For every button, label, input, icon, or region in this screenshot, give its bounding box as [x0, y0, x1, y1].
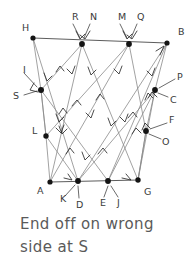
edge-SI-RN — [41, 44, 82, 90]
pointer-I — [24, 73, 37, 87]
pointer-D — [78, 186, 79, 198]
graph-svg: H R N M Q B I S P C L F O A K D E J G En… — [0, 0, 195, 269]
caption-line-2: side at S — [20, 238, 88, 256]
vertex-label-A: A — [37, 185, 44, 196]
arrow-EJ-B-a — [132, 128, 141, 134]
vertex-label-N: N — [90, 11, 97, 22]
edge-B-KD — [78, 43, 167, 181]
arrowheads-layer — [30, 31, 164, 180]
pointer-C — [158, 93, 168, 97]
node-A[interactable] — [47, 179, 52, 184]
edge-A-G — [50, 180, 138, 182]
vertex-label-P: P — [177, 71, 183, 82]
diagram-canvas-container: H R N M Q B I S P C L F O A K D E J G En… — [0, 0, 195, 269]
node-RN[interactable] — [79, 41, 85, 47]
edge-KD-PC — [78, 90, 155, 181]
vertex-label-B: B — [178, 26, 185, 37]
edge-left-chain — [33, 38, 50, 182]
arrow-B-KD-b — [120, 114, 128, 122]
nodes-layer — [30, 35, 169, 184]
edge-PC-EJ — [108, 90, 155, 181]
vertex-label-Q: Q — [137, 11, 144, 22]
edge-L-KD — [46, 136, 78, 181]
pointer-P — [159, 79, 175, 88]
node-FO[interactable] — [143, 128, 149, 134]
pointer-K — [65, 185, 75, 196]
arrow-into-G — [122, 174, 131, 180]
arrow-RN-G-b — [108, 118, 116, 126]
arrow-RN-A-a — [67, 66, 75, 74]
vertex-label-K: K — [60, 193, 67, 204]
arrow-into-KD — [64, 174, 72, 180]
vertex-label-L: L — [32, 125, 38, 136]
edge-EJ-B — [108, 43, 167, 181]
edges-layer — [33, 38, 167, 182]
vertex-label-G: G — [144, 186, 151, 197]
vertex-label-C: C — [170, 94, 177, 105]
pointer-S — [24, 91, 37, 95]
node-SI[interactable] — [38, 87, 44, 93]
vertex-label-H: H — [22, 22, 29, 33]
pointer-J — [111, 186, 118, 197]
node-H[interactable] — [30, 35, 35, 40]
arrow-H-KD-a — [44, 73, 52, 81]
node-PC[interactable] — [152, 87, 158, 93]
node-L[interactable] — [43, 133, 48, 138]
node-G[interactable] — [135, 177, 140, 182]
vertex-label-J: J — [116, 197, 120, 208]
vertex-label-F: F — [169, 114, 174, 125]
pointer-F — [150, 123, 167, 129]
node-KD[interactable] — [75, 178, 81, 184]
node-EJ[interactable] — [105, 178, 111, 184]
arrow-into-SI — [30, 83, 38, 92]
edge-A-MQ — [50, 44, 129, 182]
vertex-label-I: I — [23, 64, 26, 75]
node-MQ[interactable] — [126, 41, 132, 47]
edge-L-SI — [41, 90, 46, 136]
edge-H-B — [33, 38, 167, 43]
edge-RN-A — [50, 44, 82, 182]
pointer-E — [104, 186, 108, 197]
node-B[interactable] — [164, 40, 169, 45]
caption-line-1: End off on wrong — [20, 215, 154, 233]
vertex-label-D: D — [76, 199, 83, 210]
arrow-A-MQ-a — [66, 148, 74, 154]
label-pointers-layer — [24, 24, 175, 198]
pointer-O — [149, 134, 161, 139]
arrow-SI-EJ-b — [82, 152, 90, 160]
pointer-R — [73, 24, 80, 38]
vertex-label-S: S — [13, 90, 19, 101]
vertex-label-R: R — [72, 11, 79, 22]
vertex-label-M: M — [118, 11, 126, 22]
caption-layer: End off on wrong side at S — [20, 215, 154, 256]
vertex-label-E: E — [100, 197, 106, 208]
arrow-MQ-L-a — [114, 66, 122, 74]
vertex-label-O: O — [162, 136, 169, 147]
pointer-M — [120, 24, 127, 38]
